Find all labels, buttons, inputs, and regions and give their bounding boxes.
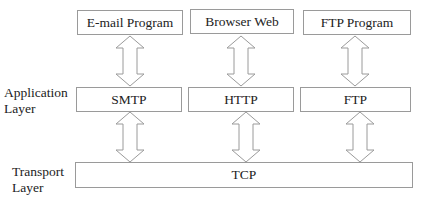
arrows-layer (0, 0, 424, 198)
double-arrow-icon (341, 36, 369, 86)
double-arrow-icon (227, 36, 255, 86)
double-arrow-icon (116, 36, 144, 86)
double-arrow-icon (232, 112, 260, 162)
double-arrow-icon (346, 112, 374, 162)
double-arrow-icon (116, 112, 144, 162)
